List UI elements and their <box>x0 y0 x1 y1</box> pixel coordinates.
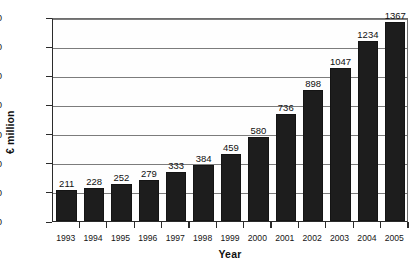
bar-group: 228 <box>84 188 104 221</box>
x-tick-mark <box>243 222 244 228</box>
bar <box>139 180 159 221</box>
bar <box>111 184 131 221</box>
bar-group: 1367 <box>385 22 405 221</box>
x-tick-mark <box>270 222 271 228</box>
bar-group: 1047 <box>330 68 350 221</box>
gridline <box>53 19 407 20</box>
y-axis-title: € million <box>2 92 18 172</box>
x-tick-mark <box>161 222 162 228</box>
x-tick-label: 2005 <box>377 233 411 243</box>
bar-value-label: 1234 <box>357 29 378 40</box>
y-tick-label: 0 <box>0 217 2 227</box>
bar-value-label: 211 <box>59 178 74 189</box>
bar-chart-figure: € million 0200400600800100012001400 2112… <box>0 0 420 270</box>
bar-value-label: 228 <box>86 176 102 187</box>
x-tick-mark <box>134 222 135 228</box>
y-tick-label: 1400 <box>0 13 2 23</box>
bar <box>56 190 76 221</box>
bar-value-label: 736 <box>278 102 294 113</box>
y-tick-label: 1200 <box>0 42 2 52</box>
x-tick-mark <box>407 222 408 228</box>
y-tick-label: 200 <box>0 188 2 198</box>
bar-group: 580 <box>248 137 268 222</box>
bar-group: 333 <box>166 172 186 221</box>
bar <box>358 41 378 221</box>
x-tick-mark <box>298 222 299 228</box>
bar-value-label: 333 <box>168 160 184 171</box>
bar-group: 898 <box>303 90 323 221</box>
plot-area: 2112282522793333844595807368981047123413… <box>52 18 408 222</box>
bar <box>166 172 186 221</box>
bar <box>248 137 268 222</box>
x-axis-title: Year <box>52 248 408 260</box>
y-tick-label: 1000 <box>0 71 2 81</box>
bar <box>193 165 213 221</box>
x-tick-mark <box>106 222 107 228</box>
x-tick-mark <box>380 222 381 228</box>
bar-group: 384 <box>193 165 213 221</box>
bar-value-label: 1367 <box>385 10 406 21</box>
gridline <box>53 48 407 49</box>
bar <box>330 68 350 221</box>
bar-value-label: 459 <box>223 142 239 153</box>
gridline <box>53 77 407 78</box>
x-tick-mark <box>353 222 354 228</box>
bar-group: 736 <box>276 114 296 221</box>
y-tick-label: 400 <box>0 159 2 169</box>
x-tick-mark <box>79 222 80 228</box>
bar-value-label: 580 <box>250 125 266 136</box>
x-tick-mark <box>325 222 326 228</box>
gridline <box>53 106 407 107</box>
y-tick-label: 800 <box>0 100 2 110</box>
bar <box>221 154 241 221</box>
bar-value-label: 279 <box>141 168 157 179</box>
bar <box>385 22 405 221</box>
gridline <box>53 135 407 136</box>
y-tick-label: 600 <box>0 130 2 140</box>
bar-value-label: 1047 <box>330 56 351 67</box>
bar-group: 1234 <box>358 41 378 221</box>
bar-group: 252 <box>111 184 131 221</box>
x-tick-mark <box>188 222 189 228</box>
bar <box>84 188 104 221</box>
bar-group: 279 <box>139 180 159 221</box>
bar-value-label: 252 <box>114 172 130 183</box>
x-tick-mark <box>216 222 217 228</box>
bar-group: 459 <box>221 154 241 221</box>
bar <box>276 114 296 221</box>
bar-value-label: 384 <box>196 153 212 164</box>
bar-value-label: 898 <box>305 78 321 89</box>
bar-group: 211 <box>56 190 76 221</box>
bar <box>303 90 323 221</box>
